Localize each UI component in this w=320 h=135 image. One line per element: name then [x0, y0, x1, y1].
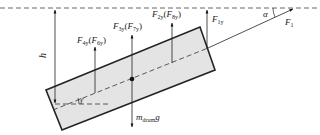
f1-label: F1: [284, 17, 294, 28]
f3y-label: F3y(F7y): [112, 21, 142, 32]
alpha-label: α: [263, 9, 268, 19]
force-diagram: h γ α F1 F1y F2y(F8y) F3y(F7y) F4y(F6y) …: [0, 0, 320, 135]
alpha-arc: [273, 8, 275, 17]
f2y-label: F2y(F8y): [151, 9, 181, 20]
f1y-label: F1y: [211, 14, 224, 25]
f1-arrow: [208, 9, 293, 48]
centroid-dot: [130, 77, 135, 82]
weight-label: mdrumg: [136, 112, 160, 123]
h-label: h: [37, 53, 48, 58]
f4y-label: F4y(F6y): [76, 35, 106, 46]
